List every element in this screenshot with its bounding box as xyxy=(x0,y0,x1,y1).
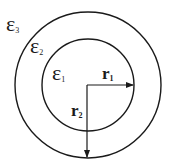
epsilon-3-label: ε3 xyxy=(6,11,19,36)
r2-label: r2 xyxy=(71,101,83,120)
epsilon-1-label: ε1 xyxy=(52,60,65,85)
concentric-circles-diagram: ε3 ε2 ε1 r1 r2 xyxy=(0,0,171,164)
epsilon-2-label: ε2 xyxy=(30,33,43,58)
r1-label: r1 xyxy=(102,64,114,83)
